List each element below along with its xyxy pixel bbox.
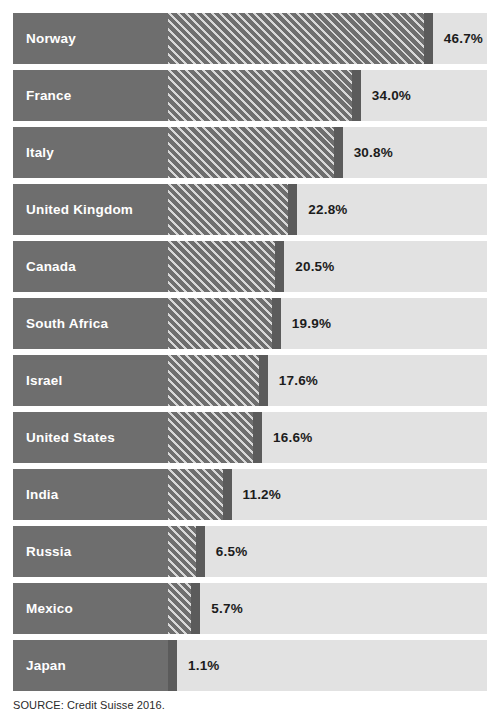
- table-row: Norway46.7%: [13, 13, 487, 64]
- bar-value-label: 17.6%: [279, 355, 318, 406]
- bar-end-cap: [288, 184, 297, 235]
- bar-fill: [168, 127, 343, 178]
- bar-value-label: 6.5%: [216, 526, 248, 577]
- bar-chart: Norway46.7%France34.0%Italy30.8%United K…: [0, 0, 500, 719]
- table-row: India11.2%: [13, 469, 487, 520]
- table-row: Canada20.5%: [13, 241, 487, 292]
- table-row: Russia6.5%: [13, 526, 487, 577]
- bar-value-label: 30.8%: [354, 127, 393, 178]
- bar-category-label: Japan: [26, 640, 66, 691]
- bar-category-label: Mexico: [26, 583, 73, 634]
- bar-rows-container: Norway46.7%France34.0%Italy30.8%United K…: [13, 13, 487, 697]
- bar-value-label: 46.7%: [444, 13, 483, 64]
- table-row: Israel17.6%: [13, 355, 487, 406]
- bar-fill: [168, 298, 281, 349]
- table-row: Mexico5.7%: [13, 583, 487, 634]
- bar-fill: [168, 70, 361, 121]
- table-row: Japan1.1%: [13, 640, 487, 691]
- bar-category-label: Italy: [26, 127, 54, 178]
- bar-fill: [168, 412, 262, 463]
- bar-category-label: Canada: [26, 241, 76, 292]
- bar-category-label: United States: [26, 412, 115, 463]
- bar-value-label: 16.6%: [273, 412, 312, 463]
- source-note: SOURCE: Credit Suisse 2016.: [13, 699, 165, 711]
- bar-category-label: Russia: [26, 526, 71, 577]
- bar-end-cap: [272, 298, 281, 349]
- bar-value-label: 1.1%: [188, 640, 220, 691]
- bar-fill: [168, 355, 268, 406]
- bar-fill: [168, 184, 297, 235]
- bar-fill: [168, 241, 284, 292]
- bar-end-cap: [259, 355, 268, 406]
- bar-value-label: 19.9%: [292, 298, 331, 349]
- bar-category-label: Israel: [26, 355, 62, 406]
- table-row: France34.0%: [13, 70, 487, 121]
- bar-fill: [168, 13, 433, 64]
- table-row: United States16.6%: [13, 412, 487, 463]
- bar-category-label: South Africa: [26, 298, 108, 349]
- bar-value-label: 11.2%: [243, 469, 282, 520]
- bar-end-cap: [334, 127, 343, 178]
- bar-category-label: France: [26, 70, 71, 121]
- bar-category-label: India: [26, 469, 59, 520]
- bar-end-cap: [223, 469, 232, 520]
- bar-end-cap: [275, 241, 284, 292]
- table-row: South Africa19.9%: [13, 298, 487, 349]
- bar-end-cap: [196, 526, 205, 577]
- cropped-title-remnant: [13, 0, 343, 9]
- bar-value-label: 20.5%: [295, 241, 334, 292]
- bar-end-cap: [253, 412, 262, 463]
- bar-end-cap: [424, 13, 433, 64]
- bar-category-label: Norway: [26, 13, 76, 64]
- bar-value-label: 34.0%: [372, 70, 411, 121]
- table-row: Italy30.8%: [13, 127, 487, 178]
- bar-end-cap: [191, 583, 200, 634]
- bar-category-label: United Kingdom: [26, 184, 133, 235]
- bar-value-label: 22.8%: [308, 184, 347, 235]
- bar-end-cap: [352, 70, 361, 121]
- bar-value-label: 5.7%: [211, 583, 243, 634]
- bar-end-cap: [168, 640, 177, 691]
- table-row: United Kingdom22.8%: [13, 184, 487, 235]
